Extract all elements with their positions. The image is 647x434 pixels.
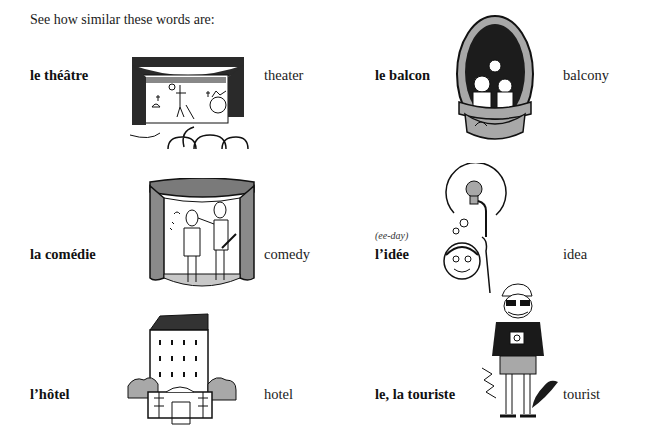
english-word-comedy: comedy — [264, 246, 310, 263]
theater-illustration — [128, 55, 253, 150]
french-word-comedie: la comédie — [30, 246, 96, 263]
pronunciation-idee: (ee-day) — [375, 230, 408, 241]
english-word-theater: theater — [264, 67, 303, 84]
french-word-touriste: le, la touriste — [375, 386, 455, 403]
english-word-idea: idea — [563, 246, 587, 263]
english-word-balcony: balcony — [563, 67, 609, 84]
french-word-theatre: le théâtre — [30, 67, 88, 84]
french-word-hotel: l’hôtel — [30, 386, 69, 403]
hotel-illustration — [124, 312, 240, 428]
english-word-hotel: hotel — [264, 386, 293, 403]
tourist-illustration — [476, 282, 561, 430]
french-word-idee: l’idée — [375, 246, 409, 263]
intro-text: See how similar these words are: — [30, 12, 215, 28]
english-word-tourist: tourist — [563, 386, 600, 403]
french-word-balcon: le balcon — [375, 67, 430, 84]
comedy-illustration — [148, 178, 258, 298]
balcony-illustration — [455, 14, 535, 146]
